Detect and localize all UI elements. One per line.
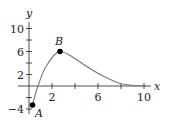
y-tick-label-neg4: −4 (8, 103, 24, 116)
x-tick-label-10: 10 (137, 91, 151, 104)
point-b (57, 49, 63, 55)
point-b-label: B (54, 35, 63, 48)
x-tick-label-6: 6 (95, 91, 102, 104)
x-axis-label: x (154, 80, 161, 93)
y-axis-label: y (25, 7, 33, 20)
y-tick-label-6: 6 (17, 46, 24, 59)
y-tick-label-2: 2 (17, 69, 24, 82)
y-tick-label-10: 10 (10, 23, 24, 36)
function-graph: 2 6 10 10 6 2 −4 x y A B (0, 0, 173, 125)
x-tick-label-2: 2 (49, 91, 56, 104)
point-a-label: A (34, 107, 43, 120)
